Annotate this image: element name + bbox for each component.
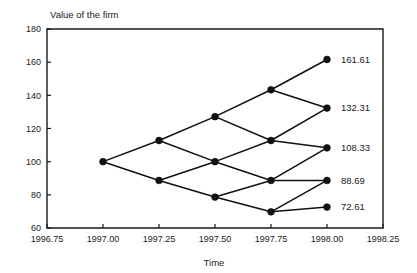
- lattice-edge: [215, 141, 271, 162]
- lattice-edge: [271, 59, 327, 89]
- lattice-node: [268, 177, 275, 184]
- y-axis-title: Value of the firm: [50, 9, 119, 20]
- y-tick-label: 160: [26, 57, 41, 67]
- y-tick-label: 120: [26, 124, 41, 134]
- y-tick-label: 140: [26, 91, 41, 101]
- lattice-node: [324, 105, 331, 112]
- lattice-edge: [215, 117, 271, 141]
- y-tick-label: 60: [31, 223, 41, 233]
- terminal-value-label: 108.33: [341, 142, 370, 153]
- lattice-node: [212, 158, 219, 165]
- y-tick-label: 80: [31, 190, 41, 200]
- x-tick-label: 1997.25: [143, 234, 176, 244]
- lattice-node: [100, 158, 107, 165]
- lattice-edge: [159, 141, 215, 162]
- lattice-node: [156, 177, 163, 184]
- terminal-value-label: 72.61: [341, 201, 365, 212]
- lattice-edge: [159, 162, 215, 181]
- lattice-edge: [271, 141, 327, 148]
- lattice-node: [268, 137, 275, 144]
- lattice-edge: [271, 108, 327, 140]
- lattice-node: [156, 137, 163, 144]
- lattice-node: [324, 144, 331, 151]
- x-tick-label: 1997.50: [199, 234, 232, 244]
- terminal-value-label: 161.61: [341, 54, 370, 65]
- x-tick-label: 1997.00: [87, 234, 120, 244]
- x-tick-label: 1997.75: [255, 234, 288, 244]
- binomial-tree-chart: 6080100120140160180 1996.751997.001997.2…: [0, 0, 417, 273]
- lattice-edge: [159, 117, 215, 141]
- lattice-edge: [215, 197, 271, 212]
- lattice-node: [324, 56, 331, 63]
- lattice-edge: [215, 162, 271, 181]
- lattice-node: [212, 194, 219, 201]
- y-tick-labels: 6080100120140160180: [26, 24, 41, 233]
- x-tick-label: 1998.00: [311, 234, 344, 244]
- terminal-value-label: 88.69: [341, 175, 365, 186]
- x-tick-labels: 1996.751997.001997.251997.501997.751998.…: [31, 234, 400, 244]
- lattice-edge: [215, 180, 271, 197]
- lattice-edge: [159, 180, 215, 197]
- terminal-value-labels: 161.61132.31108.3388.6972.61: [341, 54, 370, 213]
- lattice-node: [268, 208, 275, 215]
- lattice-node: [212, 113, 219, 120]
- lattice-node: [324, 177, 331, 184]
- lattice-node: [268, 86, 275, 93]
- y-tick-label: 180: [26, 24, 41, 34]
- y-tick-label: 100: [26, 157, 41, 167]
- lattice-edge: [103, 162, 159, 181]
- x-axis-title: Time: [204, 257, 225, 268]
- chart-container: 6080100120140160180 1996.751997.001997.2…: [0, 0, 417, 273]
- lattice-edges: [103, 59, 327, 211]
- lattice-edge: [271, 90, 327, 108]
- lattice-edge: [215, 90, 271, 117]
- lattice-nodes: [100, 56, 331, 215]
- lattice-node: [324, 204, 331, 211]
- x-tick-label: 1996.75: [31, 234, 64, 244]
- terminal-value-label: 132.31: [341, 102, 370, 113]
- lattice-edge: [103, 141, 159, 162]
- x-tick-label: 1998.25: [367, 234, 400, 244]
- lattice-edge: [271, 148, 327, 181]
